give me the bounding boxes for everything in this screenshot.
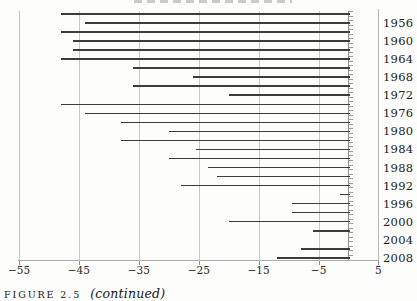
year-label-1996: 1996 [383,197,413,211]
bar-1996-1 [340,194,350,196]
bar-1992-2 [181,185,350,187]
year-label-1964: 1964 [383,52,413,66]
figure-page: 1956196019641968197219761980198419881992… [0,0,417,301]
bar-1968-1 [133,67,350,69]
bar-1976-2 [85,113,350,115]
year-label-2000: 2000 [383,215,413,229]
year-label-2004: 2004 [383,233,413,247]
year-label-1976: 1976 [383,106,413,120]
figure-caption-label: FIGURE 2.5 [4,289,81,300]
bar-2008-2 [277,257,350,259]
x-axis-tick-label--25: −25 [188,264,210,276]
figure-caption-note: (continued) [90,286,165,301]
right-frame-line [378,9,379,261]
bar-1988-1 [169,158,350,160]
year-label-1988: 1988 [383,161,413,175]
bar-1980-2 [169,131,350,133]
bar-1992-1 [217,176,350,178]
bar-1968-2 [193,76,350,78]
year-label-1980: 1980 [383,124,413,138]
left-frame-line [19,11,20,261]
bar-2008-1 [301,248,350,250]
bar-2004-1 [313,230,350,232]
x-axis-tick-label--45: −45 [68,264,90,276]
year-label-1992: 1992 [383,179,413,193]
bar-1976-1 [61,104,350,106]
bar-1956-2 [85,22,350,24]
bar-1972-2 [229,94,350,96]
x-axis-tick-label--15: −15 [248,264,270,276]
bar-1956-1 [61,13,350,15]
year-label-1960: 1960 [383,34,413,48]
bar-1960-2 [73,40,350,42]
bar-1960-1 [61,31,350,33]
bar-1964-2 [61,58,350,60]
x-axis-tick-label-5: 5 [375,264,382,276]
bar-1964-1 [73,49,350,51]
x-axis-tick-label--55: −55 [8,264,30,276]
year-label-1956: 1956 [383,16,413,30]
figure-caption: FIGURE 2.5 (continued) [4,283,165,301]
x-axis-tick-label--5: −5 [311,264,326,276]
bar-1980-1 [121,122,350,124]
year-label-1972: 1972 [383,88,413,102]
x-axis-tick-label--35: −35 [128,264,150,276]
bar-2000-1 [292,212,350,214]
bar-2000-2 [229,221,350,223]
year-label-1968: 1968 [383,70,413,84]
bar-1996-2 [292,203,350,205]
plot-area: 1956196019641968197219761980198419881992… [0,0,417,301]
bar-1984-1 [121,140,350,142]
bar-1984-2 [196,149,350,151]
year-label-2008: 2008 [383,251,413,265]
bar-1988-2 [208,167,350,169]
bar-1972-1 [133,85,350,87]
year-label-1984: 1984 [383,142,413,156]
